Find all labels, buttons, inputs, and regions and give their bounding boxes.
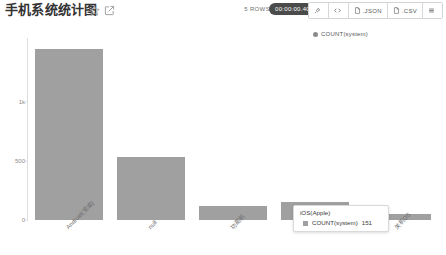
page-title: 手机系统统计图	[5, 2, 97, 18]
bar[interactable]	[199, 206, 267, 220]
bar[interactable]	[35, 49, 103, 220]
row-count-label: 5 ROWS	[244, 6, 270, 12]
tooltip-swatch	[303, 221, 308, 226]
star-icon[interactable]	[89, 5, 100, 16]
panel-header: 手机系统统计图 5 ROWS 00:00:00.40	[0, 0, 446, 24]
chart-area: 05001k Android(安卓)null功能机iOS(Apple)关机OS …	[0, 24, 446, 255]
plot-area: 05001k	[28, 38, 438, 220]
json-button[interactable]: .JSON	[349, 3, 388, 18]
edit-square-icon[interactable]	[104, 5, 115, 16]
menu-button[interactable]	[423, 3, 442, 18]
bar[interactable]	[117, 157, 185, 220]
file-icon	[354, 7, 361, 14]
x-axis-tick-label: null	[147, 219, 158, 230]
pin-icon	[314, 7, 321, 14]
tooltip-metric: COUNT(system)	[312, 220, 358, 226]
chart-tooltip: iOS(Apple) COUNT(system) 151	[293, 205, 389, 232]
tooltip-row: COUNT(system) 151	[300, 220, 382, 226]
csv-button-label: .CSV	[402, 8, 417, 14]
code-icon	[334, 7, 341, 14]
csv-button[interactable]: .CSV	[388, 3, 423, 18]
y-axis-tick-label: 500	[15, 158, 25, 164]
hamburger-icon	[428, 7, 435, 14]
pin-button[interactable]	[309, 3, 329, 18]
y-axis-tick-mark	[25, 101, 28, 102]
chart-panel: 手机系统统计图 5 ROWS 00:00:00.40	[0, 0, 446, 255]
file-icon	[393, 7, 400, 14]
y-axis-tick-mark	[25, 220, 28, 221]
toolbar-button-group: .JSON .CSV	[308, 2, 443, 19]
json-button-label: .JSON	[363, 8, 382, 14]
tooltip-title: iOS(Apple)	[300, 210, 382, 216]
y-axis-tick-mark	[25, 160, 28, 161]
tooltip-value: 151	[362, 220, 372, 226]
code-button[interactable]	[329, 3, 349, 18]
